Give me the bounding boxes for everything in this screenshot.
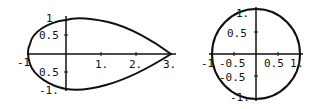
tick-label-x1: 1. [95,58,108,71]
tick-label-xn05: -0.5 [219,57,246,70]
tick-label-x3: 3. [163,58,176,71]
tick-label-x1: 1 [290,57,297,70]
tick-label-y05: 0.5 [227,27,247,40]
circle-plot: 1. 0.5 -0.5 -1. -1 -0.5 0.5 1 . [201,7,304,104]
tick-label-yn1: -1. [230,91,250,104]
plots-canvas: 1 0.5 0.5 -1. -1 1. 2. 3. 1. 0.5 -0.5 -1… [0,0,317,109]
tick-label-xn1: -1 [17,56,30,69]
tick-label-yn05: -0.5 [219,71,246,84]
tick-label-yn05: 0.5 [39,66,59,79]
tick-label-x1-dot: . [297,57,304,70]
tick-label-xn1: -1 [201,57,214,70]
tick-label-y05: 0.5 [39,29,59,42]
tick-label-x2: 2. [129,58,142,71]
tick-label-y1: 1 [46,12,53,25]
tick-label-y1: 1. [236,7,249,20]
tick-label-x05: 0.5 [264,57,284,70]
tick-label-yn1: -1. [39,84,59,97]
teardrop-plot: 1 0.5 0.5 -1. -1 1. 2. 3. [17,12,176,97]
